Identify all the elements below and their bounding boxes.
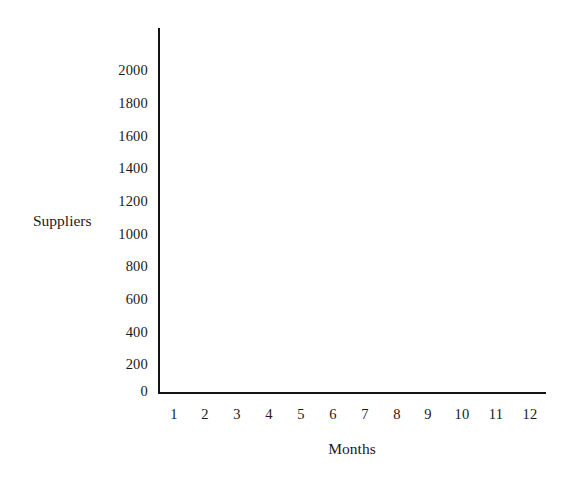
chart-figure: 2000180016001400120010008006004002000 12…: [0, 0, 576, 483]
y-axis-title: Suppliers: [33, 212, 92, 230]
x-axis-title: Months: [0, 440, 576, 458]
x-axis-tick-labels: 123456789101112: [0, 0, 576, 483]
x-tick-label: 12: [510, 406, 550, 422]
